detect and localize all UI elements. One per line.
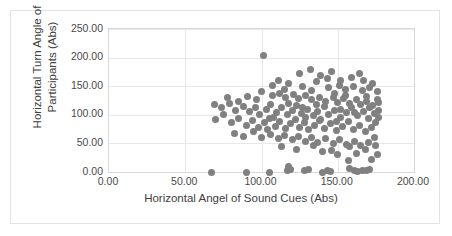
data-point	[317, 116, 324, 123]
data-point	[258, 88, 265, 95]
y-axis-tick-label: 250.00	[43, 23, 103, 34]
data-point	[252, 104, 259, 111]
y-axis-tick-label: 200.00	[43, 51, 103, 62]
data-point	[292, 116, 299, 123]
data-point	[275, 77, 282, 84]
data-point	[287, 166, 294, 173]
data-point	[374, 88, 381, 95]
x-axis-tick-label: 50.00	[154, 175, 214, 188]
data-point	[353, 150, 360, 157]
data-point	[328, 68, 335, 75]
data-point	[258, 134, 265, 141]
data-point	[351, 109, 358, 116]
gridline-vertical	[262, 29, 263, 172]
data-point	[362, 146, 369, 153]
data-point	[356, 122, 363, 129]
x-axis-tick-labels: 0.0050.00100.00150.00200.00	[108, 175, 413, 189]
data-point	[350, 126, 357, 133]
data-point	[295, 133, 302, 140]
data-point	[270, 114, 277, 121]
data-point	[313, 101, 320, 108]
data-point	[321, 125, 328, 132]
data-point	[310, 142, 317, 149]
data-point	[235, 115, 242, 122]
data-point	[350, 83, 357, 90]
data-point	[327, 168, 334, 175]
data-point	[308, 87, 315, 94]
data-point	[269, 92, 276, 99]
chart-container: Horizontal Turn Angle of Participants (A…	[10, 10, 440, 224]
data-point	[339, 123, 346, 130]
y-axis-tick-label: 50.00	[43, 137, 103, 148]
data-point	[231, 130, 238, 137]
y-axis-tick-label: 100.00	[43, 108, 103, 119]
data-point	[334, 151, 341, 158]
data-point	[250, 128, 257, 135]
data-point	[307, 66, 314, 73]
data-point	[267, 101, 274, 108]
data-point	[374, 151, 381, 158]
data-point	[278, 104, 285, 111]
data-point	[356, 70, 363, 77]
data-point	[253, 96, 260, 103]
data-point	[321, 103, 328, 110]
y-axis-tick-label: 150.00	[43, 80, 103, 91]
data-point	[319, 148, 326, 155]
data-point	[342, 92, 349, 99]
data-point	[375, 107, 382, 114]
data-point	[313, 78, 320, 85]
data-point	[368, 156, 375, 163]
data-point	[346, 143, 353, 150]
data-point	[243, 122, 250, 129]
data-point	[337, 106, 344, 113]
data-point	[328, 147, 335, 154]
data-point	[331, 90, 338, 97]
plot-area	[108, 28, 415, 173]
data-point	[366, 166, 373, 173]
data-point	[336, 136, 343, 143]
data-point	[220, 111, 227, 118]
data-point	[285, 100, 292, 107]
data-point	[281, 132, 288, 139]
x-axis-tick-label: 200.00	[383, 175, 443, 188]
data-point	[322, 135, 329, 142]
data-point	[212, 116, 219, 123]
data-point	[244, 93, 251, 100]
data-point	[333, 118, 340, 125]
data-point	[314, 108, 321, 115]
data-point	[296, 70, 303, 77]
data-point	[345, 157, 352, 164]
data-point	[232, 107, 239, 114]
data-point	[211, 101, 218, 108]
data-point	[228, 119, 235, 126]
data-point	[281, 86, 288, 93]
data-point	[260, 52, 267, 59]
data-point	[299, 83, 306, 90]
data-point	[249, 117, 256, 124]
data-point	[235, 98, 242, 105]
data-point	[362, 128, 369, 135]
data-point	[324, 75, 331, 82]
data-point	[240, 133, 247, 140]
data-point	[276, 118, 283, 125]
data-point	[278, 143, 285, 150]
data-point	[302, 114, 309, 121]
data-point	[372, 142, 379, 149]
data-point	[293, 146, 300, 153]
data-point	[305, 166, 312, 173]
data-point	[269, 82, 276, 89]
x-axis-tick-label: 0.00	[78, 175, 138, 188]
data-point	[325, 84, 332, 91]
data-point	[371, 134, 378, 141]
data-point	[375, 114, 382, 121]
x-axis-title: Horizontal Angel of Sound Cues (Abs)	[71, 192, 411, 204]
data-point	[365, 115, 372, 122]
data-point	[345, 118, 352, 125]
data-point	[360, 77, 367, 84]
x-axis-tick-label: 100.00	[231, 175, 291, 188]
x-axis-tick-label: 150.00	[307, 175, 367, 188]
y-axis-tick-labels: 0.0050.00100.00150.00200.00250.00	[41, 28, 103, 171]
gridline-vertical	[185, 29, 186, 172]
data-point	[365, 139, 372, 146]
data-point	[348, 74, 355, 81]
